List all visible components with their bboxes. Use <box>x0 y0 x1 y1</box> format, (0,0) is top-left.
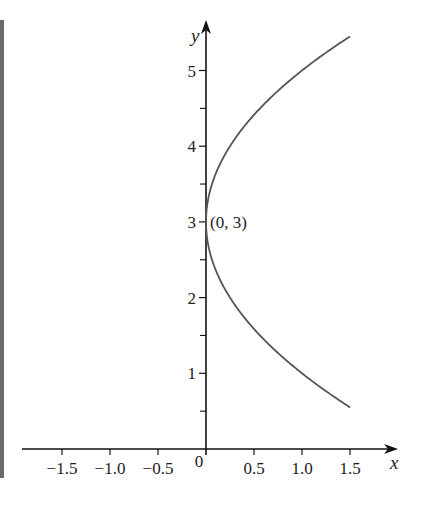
y-tick-label: 5 <box>188 62 197 81</box>
y-axis-label: y <box>189 25 200 46</box>
y-axis: y12345 <box>188 22 207 455</box>
vertex-label: (0, 3) <box>210 213 247 232</box>
x-tick-label: 0.5 <box>243 459 264 478</box>
x-tick-label: 0 <box>195 452 204 471</box>
x-tick-label: −1.0 <box>95 459 126 478</box>
x-axis-label: x <box>389 452 399 473</box>
x-tick-label: −1.5 <box>47 459 78 478</box>
y-tick-label: 3 <box>188 213 197 232</box>
chart: x−1.5−1.0−0.500.51.01.5 y12345 (0, 3) <box>0 0 431 509</box>
x-tick-label: 1.5 <box>339 459 360 478</box>
x-tick-label: −0.5 <box>143 459 174 478</box>
x-tick-label: 1.0 <box>291 459 312 478</box>
y-tick-label: 2 <box>188 289 197 308</box>
y-tick-label: 4 <box>188 137 197 156</box>
annotations: (0, 3) <box>210 213 247 232</box>
x-axis: x−1.5−1.0−0.500.51.01.5 <box>22 449 399 478</box>
y-tick-label: 1 <box>188 364 197 383</box>
